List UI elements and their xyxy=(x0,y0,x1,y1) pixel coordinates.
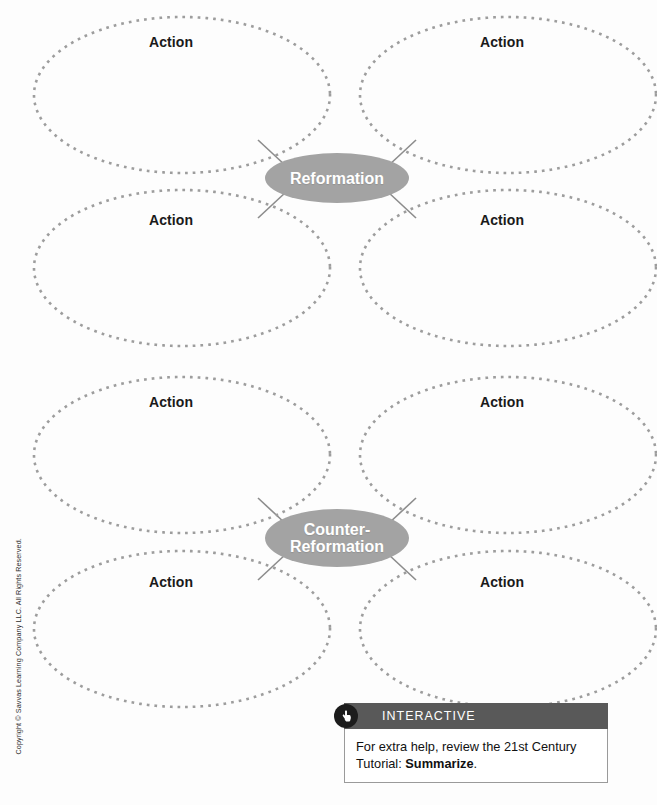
action-label-counter-action-top-left: Action xyxy=(149,394,193,410)
action-label-reformation-action-top-right: Action xyxy=(480,34,524,50)
dotted-ovals-group xyxy=(34,17,656,707)
copyright-notice: Copyright © Savvas Learning Company LLC.… xyxy=(14,535,23,755)
hub-label-reformation: Reformation xyxy=(290,170,384,187)
interactive-callout[interactable]: INTERACTIVE For extra help, review the 2… xyxy=(344,703,608,783)
interactive-banner: INTERACTIVE xyxy=(344,703,608,729)
action-label-reformation-action-top-left: Action xyxy=(149,34,193,50)
connector-line xyxy=(388,554,416,580)
action-label-counter-action-bottom-right: Action xyxy=(480,574,524,590)
graphic-organizer-diagram xyxy=(0,0,657,805)
interactive-banner-label: INTERACTIVE xyxy=(382,709,476,723)
instruction-bold-term: Summarize xyxy=(405,756,473,771)
hub-ovals-group xyxy=(265,153,409,567)
connector-line xyxy=(258,554,286,580)
worksheet-page: ActionActionActionActionReformationActio… xyxy=(0,0,657,805)
hub-label-line: Reformation xyxy=(290,538,384,555)
connector-line xyxy=(258,192,286,218)
interactive-body: For extra help, review the 21st Century … xyxy=(344,729,608,783)
action-label-counter-action-top-right: Action xyxy=(480,394,524,410)
action-label-reformation-action-bottom-left: Action xyxy=(149,212,193,228)
interactive-instruction-text: For extra help, review the 21st Century … xyxy=(356,738,596,772)
hub-label-line: Counter- xyxy=(290,521,384,538)
hub-label-line: Reformation xyxy=(290,170,384,187)
hub-label-counter-reformation: Counter-Reformation xyxy=(290,521,384,555)
connector-line xyxy=(388,192,416,218)
instruction-suffix: . xyxy=(474,756,478,771)
pointing-hand-icon xyxy=(334,704,358,728)
action-label-counter-action-bottom-left: Action xyxy=(149,574,193,590)
action-label-reformation-action-bottom-right: Action xyxy=(480,212,524,228)
